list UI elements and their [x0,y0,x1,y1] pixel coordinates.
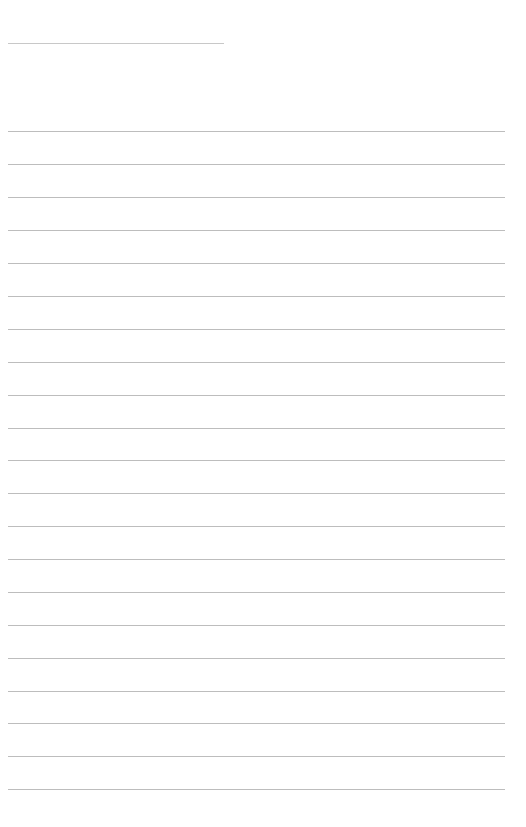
writing-line [8,559,505,560]
writing-line [8,460,505,461]
writing-line [8,131,505,132]
writing-line [8,493,505,494]
writing-line [8,789,505,790]
title-rule [8,43,224,44]
writing-line [8,526,505,527]
writing-line [8,592,505,593]
writing-line [8,723,505,724]
writing-line [8,164,505,165]
writing-line [8,296,505,297]
writing-line [8,197,505,198]
writing-line [8,691,505,692]
writing-line [8,625,505,626]
writing-line [8,395,505,396]
writing-line [8,263,505,264]
writing-line [8,428,505,429]
writing-line [8,362,505,363]
writing-line [8,230,505,231]
writing-line [8,329,505,330]
writing-line [8,658,505,659]
writing-line [8,756,505,757]
ruled-paper-page [0,0,526,827]
